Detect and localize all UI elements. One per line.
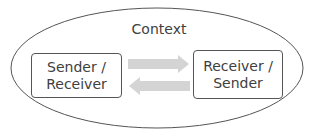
left-box-line1: Sender /: [47, 59, 106, 76]
receiver-sender-box: Receiver / Sender: [193, 50, 283, 99]
right-box-line2: Sender: [213, 75, 263, 92]
left-box-line2: Receiver: [46, 76, 107, 93]
sender-receiver-box: Sender / Receiver: [31, 53, 122, 98]
right-box-line1: Receiver /: [203, 58, 273, 75]
context-label: Context: [119, 21, 199, 38]
arrow-left: [129, 77, 190, 95]
arrow-right: [128, 55, 189, 73]
